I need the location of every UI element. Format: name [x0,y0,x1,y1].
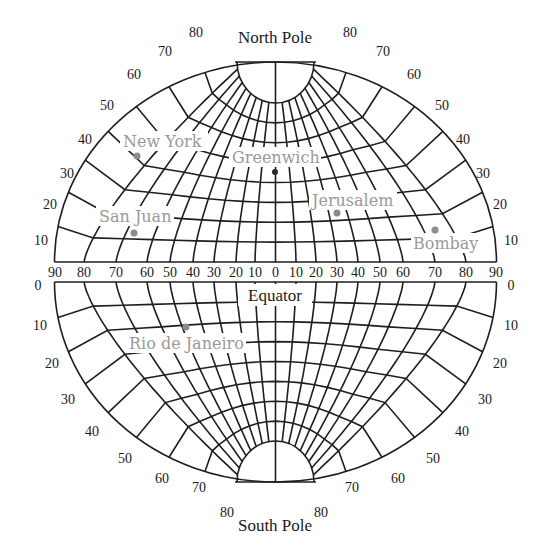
longitude-tick: 60 [140,265,154,280]
meridian-line [170,282,246,456]
latitude-tick-north-right: 30 [476,166,490,181]
latitude-tick-south-left: 30 [61,392,75,407]
meridian-line [313,282,466,475]
city-label: Rio de Janeiro [129,334,244,353]
longitude-tick: 70 [428,265,442,280]
latitude-tick-south-right: 40 [455,424,469,439]
latitude-tick-south-right: 60 [391,471,405,486]
latitude-tick-north-right: 50 [435,98,449,113]
longitude-tick: 60 [396,265,410,280]
longitude-tick: 70 [109,265,123,280]
city-dot [334,210,341,217]
latitude-tick-north-left: 10 [34,233,48,248]
latitude-tick-south-left: 20 [45,356,59,371]
latitude-tick-north-left: 50 [100,98,114,113]
latitude-tick-south-right: 30 [478,392,492,407]
latitude-tick-north-left: 40 [78,132,92,147]
longitude-tick: 10 [248,265,262,280]
latitude-tick-north-left: 30 [60,166,74,181]
longitude-tick: 30 [207,265,221,280]
latitude-tick-south-80: 80 [314,505,328,520]
city-label: Greenwich [232,148,320,167]
longitude-tick: 40 [351,265,365,280]
latitude-tick-south-left: 70 [192,480,206,495]
longitude-tick: 80 [459,265,473,280]
latitude-tick-north-left: 60 [127,67,141,82]
city-dot [183,324,190,331]
city-label: San Juan [99,207,171,226]
longitude-tick: 10 [289,265,303,280]
city-jerusalem: Jerusalem [309,190,397,217]
longitude-tick: 40 [186,265,200,280]
latitude-tick-south-right: 70 [345,480,359,495]
meridian-line [193,93,251,262]
latitude-tick-south-right: 10 [504,318,518,333]
globe-grid-diagram: 9080706050403020100102030405060708090102… [0,0,539,554]
longitude-tick: 20 [309,265,323,280]
longitude-tick: 50 [373,265,387,280]
latitude-tick-north-right: 60 [407,67,421,82]
city-greenwich: Greenwich [229,147,321,175]
meridian-line [170,88,246,262]
longitude-tick: 50 [163,265,177,280]
latitude-tick-south-left: 0 [35,278,42,293]
latitude-tick-south-80: 80 [220,505,234,520]
city-dot [134,153,141,160]
city-san-juan: San Juan [96,206,174,237]
meridian-line [300,282,358,451]
city-label: Jerusalem [310,191,393,210]
latitude-tick-south-left: 50 [118,451,132,466]
south-pole-label: South Pole [238,516,312,535]
latitude-tick-north-left: 20 [43,197,57,212]
latitude-tick-north-right: 70 [376,44,390,59]
latitude-tick-south-right: 50 [426,451,440,466]
longitude-tick: 90 [48,265,62,280]
north-pole-label: North Pole [238,28,312,47]
longitude-tick: 30 [330,265,344,280]
city-label: Bombay [413,234,478,253]
latitude-tick-north-right: 80 [343,25,357,40]
latitude-tick-south-right: 20 [493,356,507,371]
meridian-line [193,282,251,451]
city-label: New York [123,132,202,151]
latitude-tick-north-right: 40 [456,132,470,147]
meridian-line [305,282,380,456]
longitude-tick: 0 [272,265,279,280]
city-bombay: Bombay [411,227,483,254]
meridian-line [305,88,380,262]
longitude-tick: 80 [77,265,91,280]
meridian-line [300,93,358,262]
meridian-line [116,282,239,468]
equator-label: Equator [248,286,302,305]
latitude-tick-north-right: 10 [504,233,518,248]
city-dot [432,227,439,234]
latitude-tick-north-left: 80 [189,25,203,40]
latitude-tick-south-right: 0 [508,278,515,293]
latitude-tick-south-left: 60 [155,471,169,486]
city-dot [131,230,138,237]
latitude-tick-north-right: 20 [493,197,507,212]
latitude-tick-south-left: 40 [85,424,99,439]
longitude-tick: 20 [229,265,243,280]
latitude-tick-south-left: 10 [33,318,47,333]
latitude-tick-north-left: 70 [158,44,172,59]
longitude-tick: 90 [489,265,503,280]
city-dot [272,169,278,175]
meridian-line [84,282,238,475]
